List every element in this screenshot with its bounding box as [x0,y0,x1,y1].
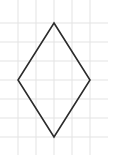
grid-rhombus-figure [0,0,114,159]
diagram-canvas: rhombus [0,0,114,159]
